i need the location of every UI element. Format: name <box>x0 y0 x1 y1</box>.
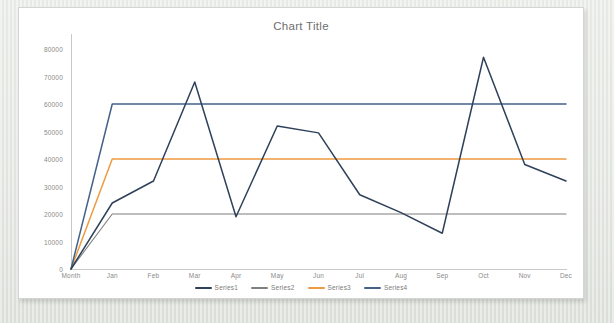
legend-item-series2[interactable]: Series2 <box>251 284 294 291</box>
chart-legend[interactable]: Series1Series2Series3Series4 <box>19 284 583 291</box>
legend-item-label: Series1 <box>215 284 238 291</box>
x-axis-tick-label: Nov <box>519 272 531 279</box>
legend-item-series3[interactable]: Series3 <box>308 284 351 291</box>
legend-swatch-icon <box>251 287 268 289</box>
x-axis-tick-label: Oct <box>478 272 489 279</box>
x-axis-tick-label: Apr <box>231 272 242 279</box>
x-axis-tick-label: Aug <box>395 272 407 279</box>
legend-item-label: Series4 <box>384 284 407 291</box>
legend-item-series1[interactable]: Series1 <box>195 284 238 291</box>
series-line-series2[interactable] <box>71 214 566 269</box>
x-axis-tick-label: Mar <box>189 272 201 279</box>
x-axis-tick-label: Jun <box>313 272 324 279</box>
x-axis-tick-label: May <box>271 272 284 279</box>
chart-card[interactable]: Chart Title 0100002000030000400005000060… <box>18 7 584 299</box>
legend-item-label: Series3 <box>328 284 351 291</box>
series-line-series1[interactable] <box>71 57 566 269</box>
series-line-series4[interactable] <box>71 104 566 269</box>
legend-swatch-icon <box>308 287 325 289</box>
legend-swatch-icon <box>364 287 381 289</box>
screenshot-root: Chart Title 0100002000030000400005000060… <box>0 0 614 323</box>
legend-swatch-icon <box>195 287 212 289</box>
x-axis-tick-label: Jan <box>107 272 118 279</box>
x-axis-tick-label: Dec <box>560 272 572 279</box>
x-axis-tick-label: Month <box>61 272 80 279</box>
chart-plot-area[interactable] <box>19 8 585 300</box>
x-axis-tick-label: Jul <box>355 272 364 279</box>
x-axis-tick-label: Feb <box>148 272 160 279</box>
legend-item-series4[interactable]: Series4 <box>364 284 407 291</box>
x-axis-tick-label: Sep <box>436 272 448 279</box>
legend-item-label: Series2 <box>271 284 294 291</box>
